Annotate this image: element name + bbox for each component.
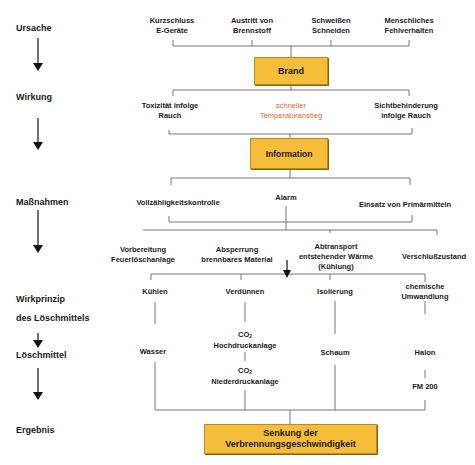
- box-information-label: Information: [266, 149, 313, 159]
- stage-label-ursache: Ursache: [16, 23, 52, 34]
- box-result: Senkung der Verbrennungsgeschwindigkeit: [204, 424, 377, 454]
- cause-line1: Kurzschluss: [150, 16, 195, 25]
- principle-kuehlen: Kühlen: [142, 287, 167, 297]
- submeasure-vorbereitung: Vorbereitung Feuerlöschanlage: [111, 245, 175, 265]
- cause-line2: Schneiden: [312, 26, 350, 35]
- cause-line2: Fehlverhalten: [385, 26, 434, 35]
- effect-line1: schneller: [276, 101, 306, 110]
- principle-chemische-umwandlung: chemische Umwandlung: [401, 282, 448, 302]
- stage-label-wirkprinzip: Wirkprinzip: [16, 294, 65, 305]
- co2-formula: CO: [238, 330, 249, 339]
- box-information: Information: [250, 138, 328, 169]
- cause-menschliches: Menschliches Fehlverhalten: [384, 16, 433, 36]
- flow-connectors: [0, 0, 475, 465]
- box-result-line2: Verbrennungsgeschwindigkeit: [225, 439, 356, 450]
- co2-low-label: Niederdruckanlage: [211, 377, 279, 386]
- co2-high-label: Hochdruckanlage: [214, 341, 277, 350]
- principle-line1: chemische: [406, 282, 445, 291]
- agent-halon: Halon: [415, 348, 436, 358]
- agent-schaum: Schaum: [320, 348, 349, 358]
- effect-line2: infolge Rauch: [381, 111, 431, 120]
- effect-sichtbehinderung: Sichtbehinderung infolge Rauch: [374, 101, 438, 121]
- principle-verduennen: Verdünnen: [226, 287, 265, 297]
- submeasure-line3: (Kühlung): [318, 262, 353, 271]
- co2-subscript: 2: [249, 333, 252, 339]
- stage-label-des-loeschmittels: des Löschmittels: [16, 313, 90, 324]
- cause-line1: Austritt von: [231, 16, 273, 25]
- agent-fm200: FM 200: [412, 382, 437, 392]
- submeasure-line2: brennbares Material: [201, 255, 272, 264]
- submeasure-line1: Abtransport: [315, 242, 358, 251]
- box-result-line1: Senkung der: [263, 428, 318, 439]
- co2-formula: CO: [238, 366, 249, 375]
- cause-austritt: Austritt von Brennstoff: [231, 16, 273, 36]
- submeasure-line2: Feuerlöschanlage: [111, 255, 175, 264]
- effect-line2: Rauch: [159, 111, 182, 120]
- submeasure-abtransport: Abtransport entstehender Wärme (Kühlung): [299, 242, 373, 272]
- effect-toxizitaet: Toxizität infolge Rauch: [142, 101, 199, 121]
- box-brand: Brand: [254, 57, 328, 85]
- agent-co2-niederdruck: CO2 Niederdruckanlage: [211, 366, 279, 387]
- box-brand-label: Brand: [278, 66, 304, 76]
- cause-kurzschluss: Kurzschluss E-Geräte: [150, 16, 195, 36]
- submeasure-verschlusszustand: Verschlußzustand: [402, 252, 466, 262]
- stage-label-massnahmen: Maßnahmen: [16, 197, 69, 208]
- submeasure-absperrung: Absperrung brennbares Material: [201, 245, 272, 265]
- stage-label-wirkung: Wirkung: [16, 92, 52, 103]
- cause-line2: E-Geräte: [156, 26, 187, 35]
- effect-line1: Sichtbehinderung: [374, 101, 438, 110]
- effect-line1: Toxizität infolge: [142, 101, 199, 110]
- submeasure-line1: Vorbereitung: [120, 245, 166, 254]
- effect-temperaturanstieg: schneller Temperaturanstieg: [260, 101, 322, 121]
- effect-line2: Temperaturanstieg: [260, 111, 322, 120]
- principle-isolierung: Isolierung: [317, 287, 353, 297]
- agent-wasser: Wasser: [140, 347, 166, 357]
- cause-schweissen: Schweißen Schneiden: [311, 16, 350, 36]
- principle-line2: Umwandlung: [401, 292, 448, 301]
- co2-subscript: 2: [249, 369, 252, 375]
- cause-line1: Menschliches: [384, 16, 433, 25]
- cause-line2: Brennstoff: [233, 26, 271, 35]
- measure-vollzaehligkeitskontrolle: Vollzähligkeitskontrolle: [136, 198, 219, 208]
- agent-co2-hochdruck: CO2 Hochdruckanlage: [214, 330, 277, 351]
- measure-alarm: Alarm: [275, 193, 296, 203]
- stage-label-ergebnis: Ergebnis: [16, 425, 55, 436]
- cause-line1: Schweißen: [311, 16, 350, 25]
- measure-primaermittel: Einsatz von Primärmitteln: [359, 200, 451, 210]
- submeasure-line1: Absperrung: [216, 245, 259, 254]
- submeasure-line2: entstehender Wärme: [299, 252, 373, 261]
- stage-label-loeschmittel: Löschmittel: [16, 350, 67, 361]
